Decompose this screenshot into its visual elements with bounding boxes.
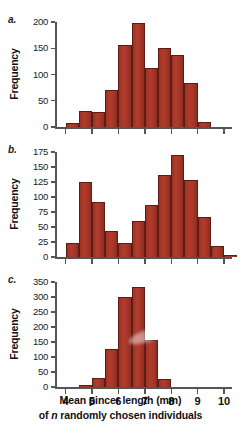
y-axis-tick xyxy=(51,196,55,197)
x-axis-tick xyxy=(171,129,172,134)
x-axis-tick xyxy=(197,259,198,264)
x-axis-tick xyxy=(65,129,66,134)
y-axis-tick xyxy=(51,341,55,342)
y-axis-tick xyxy=(51,371,55,372)
histogram-bar xyxy=(105,231,118,257)
histogram-bar xyxy=(132,287,145,387)
histogram-bar xyxy=(171,55,184,127)
y-axis-tick-label: 0 xyxy=(15,251,48,262)
histogram-bar xyxy=(158,175,171,257)
panel-b: b. 0255075100125150175Frequency xyxy=(0,144,241,269)
x-axis-tick xyxy=(223,259,224,264)
y-axis-tick xyxy=(51,151,55,152)
x-axis-tick xyxy=(144,389,145,394)
y-axis-tick-label: 150 xyxy=(15,161,48,172)
x-axis-title-line2-pre: of xyxy=(39,409,52,421)
x-axis-tick xyxy=(144,129,145,134)
x-axis-tick xyxy=(197,129,198,134)
x-axis-tick xyxy=(91,389,92,394)
histogram-bar xyxy=(184,83,197,127)
y-axis-tick xyxy=(51,74,55,75)
histogram-bar xyxy=(105,349,118,387)
histogram-bar xyxy=(79,385,92,387)
y-axis-tick xyxy=(51,211,55,212)
x-axis-tick xyxy=(118,389,119,394)
histogram-bar xyxy=(171,155,184,257)
histogram-bar xyxy=(79,111,92,127)
y-axis-tick xyxy=(51,256,55,257)
histogram-bar xyxy=(118,297,131,387)
histogram-bar xyxy=(92,378,105,387)
histogram-bar xyxy=(66,243,79,257)
y-axis-tick-label: 0 xyxy=(15,121,48,132)
histogram-bar xyxy=(145,205,158,257)
histogram-bar xyxy=(66,123,79,127)
histogram-bar xyxy=(145,340,158,387)
histogram-bar xyxy=(158,379,171,387)
y-axis-tick xyxy=(51,296,55,297)
histogram-bar xyxy=(184,180,197,257)
y-axis-title: Frequency xyxy=(8,303,20,365)
panel-a: a. 050100150200Frequency xyxy=(0,14,241,139)
y-axis-tick xyxy=(51,21,55,22)
histogram-bar xyxy=(158,48,171,127)
y-axis-tick xyxy=(51,311,55,312)
histogram-bar xyxy=(79,182,92,257)
x-axis-tick xyxy=(223,389,224,394)
x-axis-title-line2-post: randomly chosen individuals xyxy=(58,409,203,421)
x-axis-tick xyxy=(118,259,119,264)
histogram-bar xyxy=(132,221,145,257)
y-axis-tick xyxy=(51,326,55,327)
y-axis-tick-label: 0 xyxy=(15,381,48,392)
y-axis-tick xyxy=(51,226,55,227)
y-axis-tick xyxy=(51,126,55,127)
y-axis-tick-label: 175 xyxy=(15,146,48,157)
panel-c: c. 050100150200250300350Frequency4567891… xyxy=(0,274,241,399)
histogram-bar xyxy=(92,202,105,257)
y-axis-line xyxy=(55,152,57,257)
y-axis-tick xyxy=(51,281,55,282)
y-axis-tick xyxy=(51,386,55,387)
x-axis-tick xyxy=(171,259,172,264)
histogram-bar xyxy=(118,243,131,257)
y-axis-title: Frequency xyxy=(8,173,20,235)
histogram-bar xyxy=(105,90,118,127)
y-axis-title: Frequency xyxy=(8,43,20,105)
histogram-bar xyxy=(145,68,158,127)
histogram-figure: a. 050100150200Frequency b. 025507510012… xyxy=(0,0,241,435)
histogram-bar xyxy=(198,122,211,127)
y-axis-line xyxy=(55,282,57,387)
x-axis-tick xyxy=(91,129,92,134)
x-axis-tick xyxy=(171,389,172,394)
histogram-bar xyxy=(118,45,131,127)
x-axis-tick xyxy=(91,259,92,264)
y-axis-tick-label: 25 xyxy=(15,236,48,247)
x-axis-tick xyxy=(197,389,198,394)
x-axis-tick xyxy=(223,129,224,134)
x-axis-title-line2: of n randomly chosen individuals xyxy=(0,409,241,421)
y-axis-tick xyxy=(51,241,55,242)
y-axis-tick-label: 50 xyxy=(15,366,48,377)
histogram-bar xyxy=(211,246,224,257)
x-axis-tick xyxy=(118,129,119,134)
x-axis-title-line1: Mean pincer length (mm) xyxy=(0,394,241,406)
x-axis-tick xyxy=(144,259,145,264)
y-axis-tick-label: 200 xyxy=(15,16,48,27)
y-axis-tick xyxy=(51,356,55,357)
y-axis-tick xyxy=(51,181,55,182)
y-axis-tick xyxy=(51,166,55,167)
histogram-bar xyxy=(198,217,211,257)
x-axis-tick xyxy=(65,259,66,264)
y-axis-tick-label: 300 xyxy=(15,291,48,302)
y-axis-line xyxy=(55,22,57,127)
y-axis-tick xyxy=(51,48,55,49)
y-axis-tick-label: 350 xyxy=(15,276,48,287)
y-axis-tick xyxy=(51,100,55,101)
histogram-bar xyxy=(132,23,145,127)
x-axis-tick xyxy=(65,389,66,394)
histogram-bar xyxy=(224,255,237,257)
histogram-bar xyxy=(92,112,105,127)
